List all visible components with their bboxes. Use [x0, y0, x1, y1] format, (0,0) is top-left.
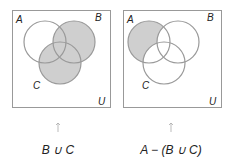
up-arrow-icon [168, 122, 174, 132]
caption-a-minus-b-union-c: A − (B ∪ C) [116, 143, 226, 157]
venn-diagram-b-union-c: A B C U [0, 0, 115, 112]
label-a: A [15, 14, 23, 25]
label-c: C [33, 80, 41, 91]
label-b: B [95, 12, 102, 23]
label-u: U [98, 96, 106, 107]
up-arrow-icon [55, 122, 61, 132]
label-c: C [142, 80, 150, 91]
label-a: A [126, 14, 134, 25]
label-b: B [207, 12, 214, 23]
caption-b-union-c: B ∪ C [3, 143, 113, 157]
label-u: U [209, 96, 217, 107]
venn-diagram-a-minus-b-union-c: A B C U [114, 0, 229, 112]
